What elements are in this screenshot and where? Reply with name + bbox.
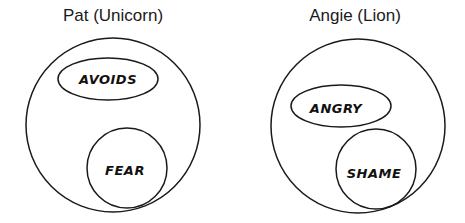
shame-label: SHAME [347, 166, 402, 181]
diagram-canvas [0, 0, 465, 223]
pat-title: Pat (Unicorn) [63, 6, 163, 26]
angie-diagram [271, 39, 445, 213]
avoids-label: AVOIDS [79, 72, 137, 87]
fear-label: FEAR [105, 163, 145, 178]
pat-outer-circle [26, 38, 200, 212]
angie-title: Angie (Lion) [309, 6, 401, 26]
pat-diagram [26, 38, 200, 212]
angry-label: ANGRY [310, 101, 362, 116]
